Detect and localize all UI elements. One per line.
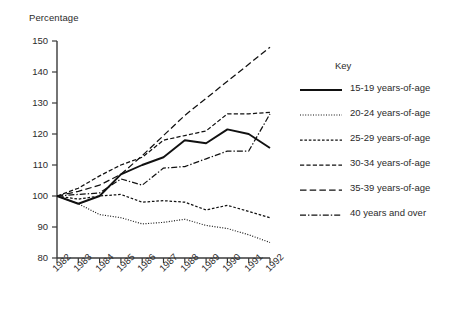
line-chart: Percentage 8090100110120130140150 198219… <box>0 0 452 321</box>
series-line <box>57 129 270 203</box>
legend-item[interactable]: 30-34 years-of-age <box>300 157 450 171</box>
series-line <box>57 114 270 196</box>
legend-swatch <box>300 113 342 116</box>
y-axis-tick-label: 90 <box>22 221 48 232</box>
legend-swatch <box>300 138 342 141</box>
y-axis-tick-label: 130 <box>22 97 48 108</box>
series-line <box>57 112 270 196</box>
legend-label: 20-24 years-of-age <box>350 107 430 118</box>
legend-label: 30-34 years-of-age <box>350 157 430 168</box>
legend-swatch <box>300 213 342 216</box>
y-axis-tick-label: 140 <box>22 66 48 77</box>
y-axis-tick-label: 80 <box>22 252 48 263</box>
series-line <box>57 194 270 217</box>
legend-item[interactable]: 25-29 years-of-age <box>300 132 450 146</box>
legend-item[interactable]: 40 years and over <box>300 207 450 221</box>
legend-item[interactable]: 15-19 years-of-age <box>300 82 450 96</box>
legend-swatch <box>300 88 342 91</box>
legend-label: 15-19 years-of-age <box>350 82 430 93</box>
legend-label: 40 years and over <box>350 207 426 218</box>
series-line <box>57 47 270 196</box>
y-axis-tick-label: 150 <box>22 35 48 46</box>
legend-label: 35-39 years-of-age <box>350 182 430 193</box>
legend-swatch <box>300 188 342 191</box>
y-axis-tick-label: 110 <box>22 159 48 170</box>
legend-item[interactable]: 20-24 years-of-age <box>300 107 450 121</box>
legend-item[interactable]: 35-39 years-of-age <box>300 182 450 196</box>
y-axis-tick-label: 100 <box>22 190 48 201</box>
series-line <box>57 196 270 243</box>
legend-label: 25-29 years-of-age <box>350 132 430 143</box>
y-axis-tick-label: 120 <box>22 128 48 139</box>
legend-title: Key <box>335 60 351 71</box>
legend-swatch <box>300 163 342 166</box>
